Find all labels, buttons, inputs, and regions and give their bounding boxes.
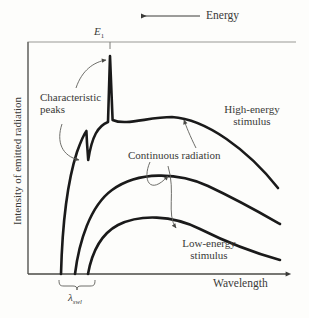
energy-axis-label: Energy <box>206 9 239 21</box>
high-energy-line2: stimulus <box>216 116 288 128</box>
lambda-subscript: swl <box>73 298 82 305</box>
curve-high-energy-stimulus <box>61 56 278 274</box>
x-axis-label: Wavelength <box>213 277 268 289</box>
continuous-radiation-annotation: Continuous radiation <box>128 150 221 162</box>
lambda-brace <box>59 280 95 290</box>
lambda-swl-label: λswl <box>68 292 82 306</box>
leader-to-middle-continuum <box>147 162 168 185</box>
leader-to-primary-peak <box>76 60 106 88</box>
characteristic-peaks-line2: peaks <box>40 104 118 116</box>
low-energy-line2: stimulus <box>176 250 242 262</box>
high-energy-stimulus-annotation: High-energy stimulus <box>216 104 288 128</box>
characteristic-peaks-annotation: Characteristic peaks <box>40 92 118 116</box>
e1-marker-label: E1 <box>94 26 104 40</box>
leader-to-top-continuum <box>184 120 196 148</box>
low-energy-stimulus-annotation: Low-energy stimulus <box>176 238 242 262</box>
y-axis-label: Intensity of emitted radiation <box>12 61 24 261</box>
e1-subscript: 1 <box>101 32 104 39</box>
e1-symbol: E <box>94 25 101 37</box>
